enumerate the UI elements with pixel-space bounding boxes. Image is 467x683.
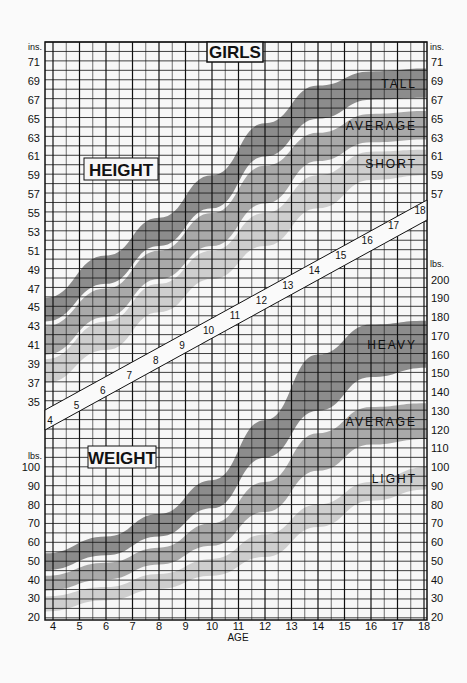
height-tick-left: 61: [28, 150, 40, 162]
height-tick-left: 69: [28, 75, 40, 87]
age-band-label: 6: [100, 385, 106, 396]
chart-title: GIRLS: [209, 43, 261, 62]
height-tick-left: 41: [28, 339, 40, 351]
age-band-label: 13: [282, 280, 294, 291]
height-tick-right: 57: [431, 188, 443, 200]
weight-tick-left: 60: [28, 536, 40, 548]
weight-tick-left: 40: [28, 574, 40, 586]
height-tick-right: 69: [431, 75, 443, 87]
height-tick-left: 63: [28, 132, 40, 144]
weight-tick-right: 110: [431, 442, 449, 454]
height-tick-right: 71: [431, 56, 443, 68]
weight-tick-right: 130: [431, 405, 449, 417]
weight-tick-right: 150: [431, 367, 449, 379]
weight-tick-left: 30: [28, 592, 40, 604]
weight-tick-right: 20: [431, 611, 443, 623]
weight-tick-left: 100: [22, 461, 40, 473]
height-tick-left: 71: [28, 56, 40, 68]
age-band-label: 12: [256, 295, 268, 306]
weight-tick-right: 70: [431, 517, 443, 529]
x-tick: 14: [312, 620, 324, 632]
x-tick: 9: [182, 620, 188, 632]
height-tick-left: 35: [28, 396, 40, 408]
height-tick-left: 53: [28, 226, 40, 238]
band-label-light: LIGHT: [372, 472, 417, 486]
x-tick: 12: [259, 620, 271, 632]
height-tick-left: 47: [28, 283, 40, 295]
weight-panel-label: WEIGHT: [88, 449, 157, 468]
weight-tick-right: 60: [431, 536, 443, 548]
x-tick: 10: [206, 620, 218, 632]
age-band-label: 10: [203, 325, 215, 336]
weight-tick-right: 170: [431, 330, 449, 342]
x-tick: 18: [418, 620, 430, 632]
height-tick-left: 37: [28, 377, 40, 389]
unit-left-inches: ins.: [28, 42, 42, 52]
height-tick-left: 67: [28, 94, 40, 106]
height-tick-right: 65: [431, 113, 443, 125]
weight-tick-right: 50: [431, 555, 443, 567]
weight-tick-right: 90: [431, 480, 443, 492]
height-panel-label: HEIGHT: [89, 161, 154, 180]
age-band-label: 17: [388, 220, 400, 231]
weight-tick-left: 50: [28, 555, 40, 567]
x-tick: 4: [50, 620, 56, 632]
x-tick: 7: [129, 620, 135, 632]
x-tick: 11: [233, 620, 244, 632]
band-label-average: AVERAGE: [346, 415, 417, 429]
x-tick: 15: [338, 620, 350, 632]
age-band-label: 11: [230, 310, 241, 321]
growth-chart: TALLAVERAGESHORTHEAVYAVERAGELIGHT 456789…: [0, 0, 467, 683]
weight-tick-left: 70: [28, 517, 40, 529]
x-tick: 6: [103, 620, 109, 632]
x-tick: 13: [285, 620, 297, 632]
age-band-label: 16: [362, 235, 374, 246]
height-tick-left: 59: [28, 169, 40, 181]
height-tick-right: 61: [431, 150, 443, 162]
x-tick: 17: [391, 620, 403, 632]
height-tick-left: 57: [28, 188, 40, 200]
unit-right-pounds: lbs.: [430, 259, 444, 269]
age-band-label: 8: [153, 355, 159, 366]
band-label-short: SHORT: [365, 157, 417, 171]
age-band-label: 18: [414, 205, 426, 216]
weight-tick-right: 100: [431, 461, 449, 473]
age-band-label: 5: [74, 400, 80, 411]
unit-right-inches: ins.: [430, 42, 444, 52]
weight-tick-left: 90: [28, 480, 40, 492]
x-tick: 16: [365, 620, 377, 632]
height-tick-right: 59: [431, 169, 443, 181]
height-tick-left: 65: [28, 113, 40, 125]
weight-tick-right: 180: [431, 311, 449, 323]
weight-tick-left: 80: [28, 499, 40, 511]
height-tick-left: 51: [28, 245, 40, 257]
height-tick-right: 67: [431, 94, 443, 106]
height-tick-right: 63: [431, 132, 443, 144]
unit-left-pounds: lbs.: [28, 451, 42, 461]
band-label-average: AVERAGE: [346, 119, 417, 133]
height-tick-left: 45: [28, 301, 40, 313]
age-band-label: 9: [179, 340, 185, 351]
x-axis-label: AGE: [227, 632, 248, 643]
weight-tick-right: 80: [431, 499, 443, 511]
x-tick: 8: [156, 620, 162, 632]
age-band-label: 14: [309, 265, 321, 276]
height-tick-left: 39: [28, 358, 40, 370]
weight-tick-left: 20: [28, 611, 40, 623]
height-tick-left: 55: [28, 207, 40, 219]
weight-tick-right: 200: [431, 274, 449, 286]
age-band-label: 7: [127, 370, 133, 381]
age-band-label: 15: [335, 250, 347, 261]
weight-tick-right: 190: [431, 292, 449, 304]
weight-tick-right: 30: [431, 592, 443, 604]
weight-tick-right: 140: [431, 386, 449, 398]
band-label-heavy: HEAVY: [367, 338, 417, 352]
x-tick: 5: [76, 620, 82, 632]
height-tick-left: 43: [28, 320, 40, 332]
height-tick-left: 49: [28, 264, 40, 276]
weight-tick-right: 160: [431, 349, 449, 361]
weight-tick-right: 120: [431, 424, 449, 436]
age-band-label: 4: [47, 415, 53, 426]
weight-tick-right: 40: [431, 574, 443, 586]
